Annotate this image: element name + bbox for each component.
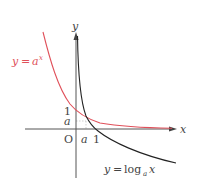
svg-text:=: =: [21, 55, 30, 68]
exponential-label: y = a x: [11, 54, 43, 68]
y-tick-a: a: [64, 115, 71, 128]
x-tick-1: 1: [93, 133, 100, 146]
svg-text:a: a: [32, 55, 39, 68]
x-axis-arrow-icon: [169, 127, 177, 132]
guide-lines: [76, 121, 86, 129]
svg-text:x: x: [149, 163, 156, 176]
exponential-curve: [43, 32, 172, 128]
logarithm-label: y = log a x: [103, 163, 156, 178]
svg-text:log: log: [124, 163, 141, 176]
svg-text:x: x: [39, 54, 43, 62]
x-tick-a: a: [81, 133, 88, 146]
svg-text:a: a: [143, 170, 147, 178]
svg-text:y: y: [11, 55, 19, 68]
function-graph: y x O a 1 1 a y = a x y = log a x: [0, 0, 199, 191]
x-axis-label: x: [180, 123, 187, 136]
svg-text:=: =: [113, 163, 122, 176]
svg-text:y: y: [103, 163, 111, 176]
y-axis-label: y: [71, 20, 79, 33]
origin-label: O: [64, 133, 73, 146]
